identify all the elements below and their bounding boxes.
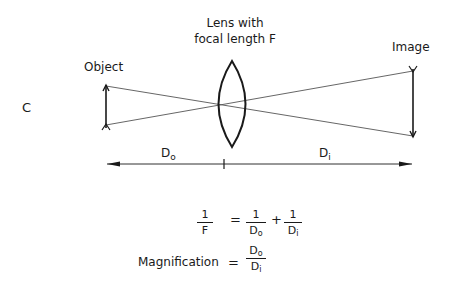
ray-top-object-to-bottom-image bbox=[106, 86, 413, 136]
lens-label-line2: focal length F bbox=[180, 33, 290, 45]
fraction-do-over-di: Do Di bbox=[246, 245, 266, 272]
equals-sign: = bbox=[228, 256, 239, 269]
image-arrow bbox=[409, 66, 417, 137]
lens-label-line1: Lens with bbox=[180, 17, 290, 29]
equals-sign: = bbox=[230, 213, 241, 226]
object-label: Object bbox=[84, 61, 123, 73]
distance-axis bbox=[107, 159, 412, 169]
ray-bottom-object-to-top-image bbox=[106, 71, 413, 125]
plus-sign: + bbox=[271, 213, 282, 226]
fraction-one-over-f: 1 F bbox=[197, 209, 213, 236]
object-distance-label: Do bbox=[161, 147, 176, 159]
fraction-one-over-do: 1 Do bbox=[246, 209, 266, 236]
object-arrow bbox=[102, 85, 110, 130]
convex-lens bbox=[219, 61, 246, 147]
image-label: Image bbox=[392, 41, 430, 53]
magnification-label: Magnification bbox=[138, 256, 219, 268]
fraction-one-over-di: 1 Di bbox=[284, 209, 302, 236]
image-distance-label: Di bbox=[319, 147, 331, 159]
panel-label: C bbox=[22, 101, 31, 114]
